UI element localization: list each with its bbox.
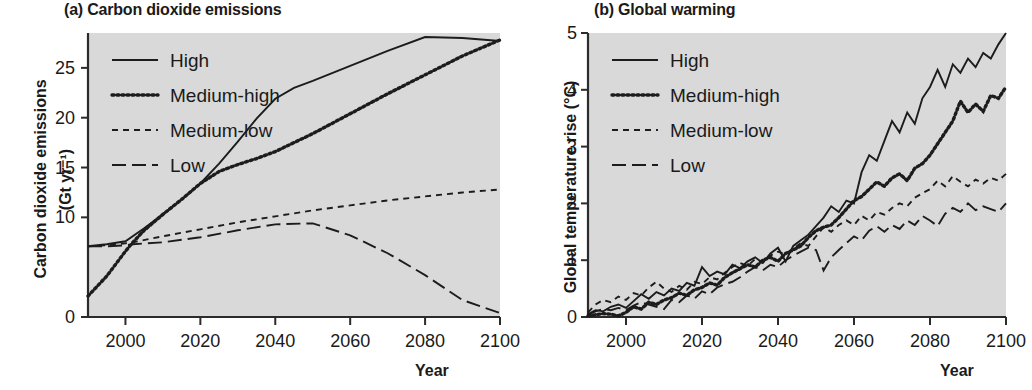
x-axis-tick-label: 2020 — [180, 331, 220, 351]
legend-label-low: Low — [170, 155, 205, 176]
x-axis-tick-label: 2040 — [255, 331, 295, 351]
legend-label-low: Low — [670, 155, 705, 176]
y-axis-tick-label: 20 — [55, 108, 75, 128]
y-axis-tick-label: 10 — [55, 207, 75, 227]
legend-label-high: High — [670, 50, 709, 71]
y-axis-tick-label: 4 — [567, 80, 577, 100]
x-axis-tick-label: 2100 — [986, 331, 1026, 351]
x-axis-tick-label: 2040 — [758, 331, 798, 351]
y-axis-tick-label: 25 — [55, 58, 75, 78]
x-axis-tick-label: 2020 — [682, 331, 722, 351]
y-axis-tick-label: 15 — [55, 158, 75, 178]
x-axis-tick-label: 2000 — [105, 331, 145, 351]
legend-label-medium-low: Medium-low — [670, 120, 773, 141]
y-axis-tick-label: 5 — [567, 23, 577, 43]
panel-a-plot: 010152025200020202040206020802100HighMed… — [0, 0, 516, 390]
legend-label-medium-high: Medium-high — [170, 85, 280, 106]
x-axis-tick-label: 2080 — [405, 331, 445, 351]
x-axis-tick-label: 2060 — [330, 331, 370, 351]
y-axis-tick-label: 2 — [567, 193, 577, 213]
x-axis-tick-label: 2100 — [480, 331, 520, 351]
x-axis-tick-label: 2000 — [606, 331, 646, 351]
y-axis-tick-label: 3 — [567, 137, 577, 157]
figure-root: (a) Carbon dioxide emissions Carbon diox… — [0, 0, 1032, 390]
x-axis-tick-label: 2060 — [834, 331, 874, 351]
panel-carbon-dioxide-emissions: (a) Carbon dioxide emissions Carbon diox… — [0, 0, 516, 390]
legend-label-medium-high: Medium-high — [670, 85, 780, 106]
y-axis-tick-label: 0 — [65, 307, 75, 327]
y-axis-tick-label: 1 — [567, 250, 577, 270]
y-axis-tick-label: 0 — [567, 307, 577, 327]
plot-background — [88, 33, 500, 317]
panel-global-warming: (b) Global warming Global temperature ri… — [516, 0, 1032, 390]
x-axis-tick-label: 2080 — [910, 331, 950, 351]
panel-b-plot: 012345200020202040206020802100HighMedium… — [516, 0, 1032, 390]
legend-label-high: High — [170, 50, 209, 71]
legend-label-medium-low: Medium-low — [170, 120, 273, 141]
plot-background — [588, 33, 1006, 317]
